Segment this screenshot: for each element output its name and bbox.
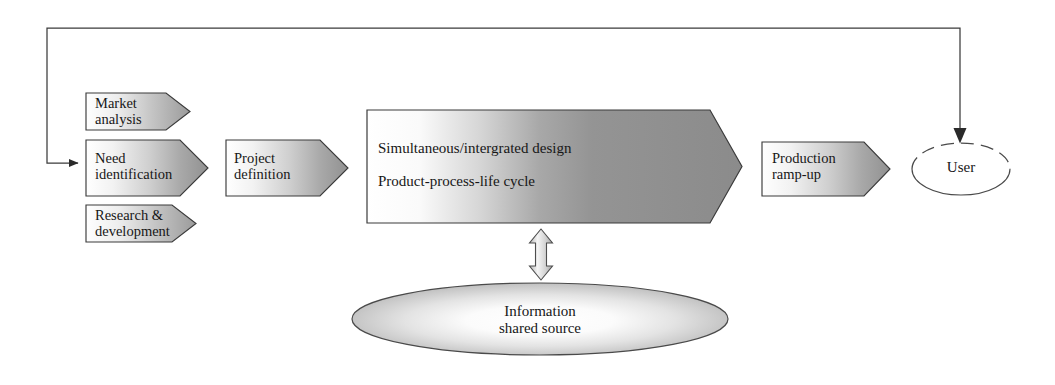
- need-identification-shape: [86, 140, 208, 196]
- process-flow-diagram: Market analysis Need identification Rese…: [0, 0, 1055, 385]
- node-need-identification[interactable]: [86, 140, 208, 196]
- user-ellipse-lower-arc: [912, 169, 1010, 195]
- double-headed-arrow-shape: [530, 229, 553, 280]
- user-ellipse-upper-arc: [912, 143, 1010, 169]
- center-block-shape: [367, 110, 742, 223]
- node-simultaneous-integrated-design[interactable]: [367, 110, 742, 223]
- node-user[interactable]: [912, 143, 1010, 195]
- diagram-canvas: [0, 0, 1055, 385]
- bidirectional-connector: [530, 229, 553, 280]
- node-research-development[interactable]: [86, 205, 196, 242]
- market-analysis-shape: [86, 93, 190, 130]
- project-definition-shape: [226, 140, 348, 196]
- information-source-shape: [352, 283, 728, 355]
- research-development-shape: [86, 205, 196, 242]
- production-ramp-up-shape: [762, 142, 890, 196]
- node-production-ramp-up[interactable]: [762, 142, 890, 196]
- node-information-shared-source[interactable]: [352, 283, 728, 355]
- node-project-definition[interactable]: [226, 140, 348, 196]
- node-market-analysis[interactable]: [86, 93, 190, 130]
- feedback-arrowhead-down: [954, 128, 967, 144]
